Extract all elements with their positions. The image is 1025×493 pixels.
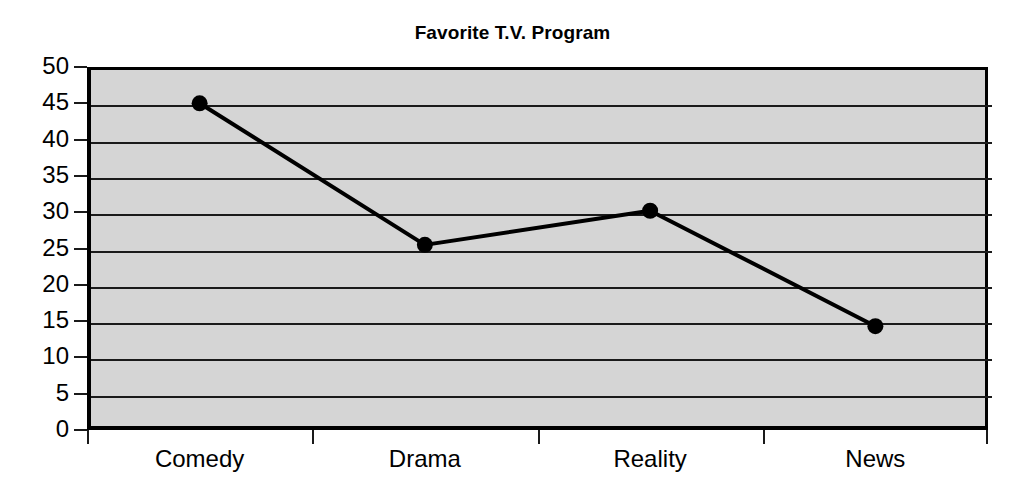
y-axis-tick-mark — [74, 211, 87, 213]
y-axis-tick-label: 50 — [42, 53, 69, 79]
y-axis-tick-mark — [74, 175, 87, 177]
y-axis-tick-mark — [74, 429, 87, 431]
x-axis-tick-label: Reality — [538, 444, 763, 474]
y-axis-tick-label: 20 — [42, 271, 69, 297]
gridline — [91, 396, 992, 398]
gridlines — [91, 70, 992, 433]
y-axis-tick-mark — [74, 248, 87, 250]
x-axis-tick-mark — [87, 430, 89, 444]
gridline — [91, 214, 992, 216]
y-axis-tick-label: 35 — [42, 162, 69, 188]
y-axis-tick-mark — [74, 356, 87, 358]
x-axis-tick-label: Comedy — [87, 444, 312, 474]
y-axis-tick-label: 25 — [42, 235, 69, 261]
y-axis-tick-mark — [74, 102, 87, 104]
y-axis-tick-mark — [74, 284, 87, 286]
gridline — [91, 142, 992, 144]
x-axis-tick-label: News — [763, 444, 988, 474]
plot-area — [87, 67, 988, 430]
y-axis-tick-mark — [74, 320, 87, 322]
y-axis-tick-mark — [74, 139, 87, 141]
gridline — [91, 359, 992, 361]
x-axis: ComedyDramaRealityNews — [87, 430, 988, 490]
gridline — [91, 251, 992, 253]
y-axis-tick-mark — [74, 393, 87, 395]
x-axis-tick-mark — [312, 430, 314, 444]
x-axis-tick-mark — [763, 430, 765, 444]
chart-figure: Favorite T.V. Program 051015202530354045… — [0, 0, 1025, 493]
y-axis-tick-label: 40 — [42, 126, 69, 152]
gridline — [91, 178, 992, 180]
y-axis: 05101520253035404550 — [0, 67, 87, 430]
y-axis-tick-label: 45 — [42, 89, 69, 115]
chart-title: Favorite T.V. Program — [0, 22, 1025, 44]
x-axis-tick-mark — [986, 430, 988, 444]
x-axis-tick-label: Drama — [312, 444, 537, 474]
y-axis-tick-label: 5 — [56, 380, 69, 406]
x-axis-tick-mark — [538, 430, 540, 444]
y-axis-tick-label: 15 — [42, 307, 69, 333]
y-axis-tick-label: 10 — [42, 343, 69, 369]
gridline — [91, 323, 992, 325]
y-axis-tick-mark — [74, 66, 87, 68]
gridline — [91, 105, 992, 107]
gridline — [91, 287, 992, 289]
y-axis-tick-label: 0 — [56, 416, 69, 442]
y-axis-tick-label: 30 — [42, 198, 69, 224]
